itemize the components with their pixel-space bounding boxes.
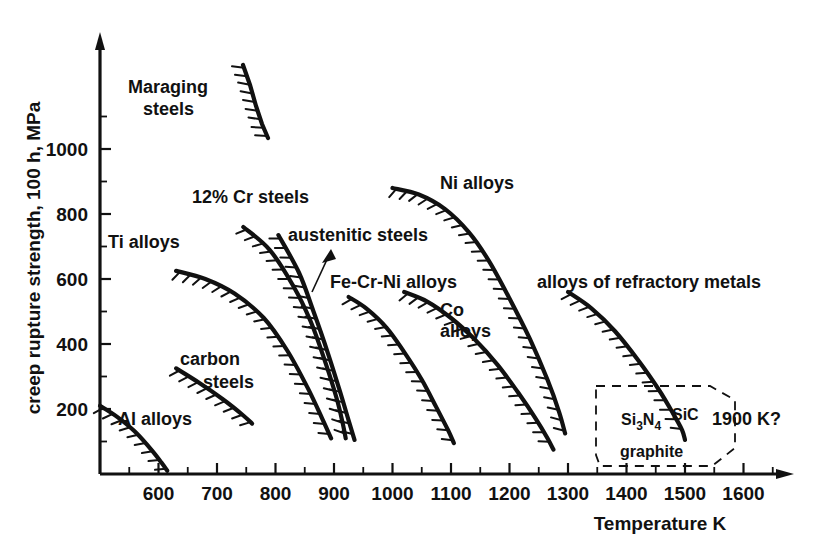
label-carbon-steels-line2: steels — [203, 372, 254, 392]
curve-hatch — [351, 305, 361, 310]
curve-hatch — [428, 204, 438, 209]
curve-hatch — [422, 400, 433, 401]
curve-hatch — [142, 451, 153, 453]
x-axis-arrow — [776, 469, 794, 479]
label-12-cr-steels: 12% Cr steels — [192, 187, 309, 207]
curve-hatch — [452, 225, 463, 227]
label-ni-alloys: Ni alloys — [440, 173, 514, 193]
label-si3n4: Si3N4 — [621, 411, 661, 433]
curve-hatch — [252, 127, 264, 128]
curve-hatch — [230, 298, 240, 302]
x-tick-label: 1300 — [547, 483, 589, 504]
x-tick-label: 1000 — [371, 483, 413, 504]
curve-hatch — [245, 236, 255, 240]
curve-hatch — [221, 291, 231, 296]
curve-hatch — [519, 337, 530, 338]
curve-hatch — [394, 354, 405, 355]
curve-hatch — [388, 344, 399, 345]
y-axis-ticks — [100, 117, 111, 442]
curve-hatch — [496, 378, 507, 379]
curve-hatch — [255, 135, 267, 136]
curve-line — [404, 292, 553, 450]
curve-hatch — [483, 360, 494, 362]
curve-hatch — [571, 300, 581, 305]
y-tick-label: 600 — [56, 269, 88, 290]
curve-hatch — [459, 233, 470, 235]
series-curve-maraging-steels — [232, 65, 268, 138]
curve-hatch — [247, 311, 257, 314]
curve-hatch — [417, 391, 428, 392]
curve-hatch — [444, 217, 455, 220]
series-labels: Maraging steels Ti alloys 12% Cr steels … — [108, 77, 761, 429]
curve-hatch — [289, 298, 300, 299]
x-tick-label: 1400 — [605, 483, 647, 504]
curve-hatch — [286, 267, 297, 268]
leader-arrowhead — [322, 249, 336, 263]
curve-hatch — [224, 408, 234, 412]
curve-hatch — [514, 328, 525, 329]
label-carbon-steels-line1: carbon — [180, 349, 240, 369]
curve-hatch — [432, 420, 443, 421]
curve-hatch — [427, 410, 438, 411]
curve-hatch — [636, 373, 647, 374]
label-co-alloys-line1: Co — [440, 300, 464, 320]
curve-hatch — [509, 318, 520, 319]
curve-hatch — [603, 329, 614, 331]
curve-hatch — [400, 293, 408, 300]
curve-hatch — [360, 312, 370, 316]
curve-hatch — [254, 319, 265, 321]
curve-hatch — [437, 429, 448, 430]
curve-hatch — [300, 393, 311, 394]
y-tick-label: 400 — [56, 334, 88, 355]
curve-hatch — [267, 337, 278, 338]
ceramics-labels: Si3N4 SiC graphite 1900 K? — [620, 406, 781, 460]
curve-hatch — [610, 338, 621, 340]
curve-hatch — [490, 369, 501, 370]
curve-hatch — [343, 299, 353, 304]
x-tick-label: 1200 — [488, 483, 530, 504]
y-tick-label: 800 — [56, 204, 88, 225]
label-fe-cr-ni-alloys: Fe-Cr-Ni alloys — [330, 272, 457, 292]
curve-hatch — [587, 314, 598, 317]
x-tick-label: 1500 — [664, 483, 706, 504]
label-refractory-metals: alloys of refractory metals — [537, 272, 761, 292]
curve-hatch — [503, 386, 514, 387]
curve-hatch — [261, 328, 272, 329]
curve-hatch — [193, 278, 201, 285]
curve-hatch — [290, 374, 301, 375]
curve-hatch — [240, 422, 251, 425]
label-maraging-steels-line2: steels — [143, 99, 194, 119]
curve-hatch — [468, 344, 479, 347]
curve-hatch — [623, 355, 634, 356]
curve-hatch — [375, 327, 386, 329]
curve-hatch — [215, 401, 225, 405]
label-austenitic-steels: austenitic steels — [288, 225, 428, 245]
curve-hatch — [532, 367, 543, 368]
curve-hatch — [295, 384, 306, 385]
x-tick-label: 1600 — [722, 483, 764, 504]
series-curve-co-alloys — [400, 292, 554, 450]
curve-hatch — [562, 294, 572, 299]
curve-hatch — [472, 251, 483, 252]
curve-hatch — [314, 423, 325, 424]
curve-hatch — [419, 199, 428, 205]
curve-hatch — [522, 414, 533, 415]
curve-hatch — [212, 286, 221, 292]
label-sic: SiC — [672, 406, 699, 423]
curve-hatch — [103, 414, 113, 419]
label-ti-alloys: Ti alloys — [108, 232, 180, 252]
curve-hatch — [127, 435, 138, 438]
curve-hatch — [382, 335, 393, 336]
curve-hatch — [523, 347, 534, 348]
curve-hatch — [528, 357, 539, 358]
curve-hatch — [409, 194, 418, 201]
creep-rupture-strength-chart: creep rupture strength, 100 h, MPa Tempe… — [0, 0, 824, 558]
curve-hatch — [504, 308, 515, 309]
curve-hatch — [400, 363, 411, 364]
label-graphite: graphite — [620, 443, 683, 460]
curve-hatch — [630, 364, 641, 365]
label-maraging-steels-line1: Maraging — [128, 77, 208, 97]
label-1900k-annotation: 1900 K? — [712, 409, 781, 429]
x-axis-title: Temperature K — [594, 513, 727, 534]
label-co-alloys-line2: alloys — [440, 321, 491, 341]
